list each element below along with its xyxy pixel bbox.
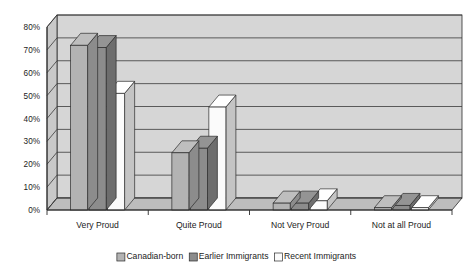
legend-swatch	[189, 253, 197, 261]
legend-swatch	[117, 253, 125, 261]
y-axis-tick-label: 40%	[24, 115, 40, 124]
y-axis-tick-label: 80%	[24, 23, 40, 32]
legend-item[interactable]: Canadian-born	[117, 251, 184, 261]
x-axis-tick-label: Not Very Proud	[271, 220, 329, 230]
x-axis-tick-label: Quite Proud	[176, 220, 222, 230]
bar	[71, 33, 98, 210]
y-axis-ticks: 0%10%20%30%40%50%60%70%80%	[24, 23, 40, 215]
chart-canvas: 0%10%20%30%40%50%60%70%80% Very ProudQui…	[0, 0, 473, 277]
y-axis-tick-label: 30%	[24, 137, 40, 146]
chart-legend: Canadian-bornEarlier ImmigrantsRecent Im…	[117, 251, 356, 261]
x-axis-tick-label: Very Proud	[76, 220, 119, 230]
x-axis-labels: Very ProudQuite ProudNot Very ProudNot a…	[47, 210, 452, 230]
legend-swatch	[274, 253, 282, 261]
y-axis-tick-label: 20%	[24, 160, 40, 169]
y-axis-tick-label: 50%	[24, 92, 40, 101]
legend-label: Canadian-born	[126, 251, 183, 261]
y-axis-tick-label: 70%	[24, 46, 40, 55]
y-axis-tick-label: 0%	[28, 206, 40, 215]
y-axis-tick-label: 60%	[24, 69, 40, 78]
bar	[172, 141, 199, 210]
legend-label: Earlier Immigrants	[199, 251, 269, 261]
legend-item[interactable]: Earlier Immigrants	[189, 251, 268, 261]
legend-item[interactable]: Recent Immigrants	[274, 251, 356, 261]
x-axis-tick-label: Not at all Proud	[372, 220, 431, 230]
legend-label: Recent Immigrants	[284, 251, 356, 261]
y-axis-tick-label: 10%	[24, 183, 40, 192]
bar-chart: 0%10%20%30%40%50%60%70%80% Very ProudQui…	[0, 0, 473, 277]
